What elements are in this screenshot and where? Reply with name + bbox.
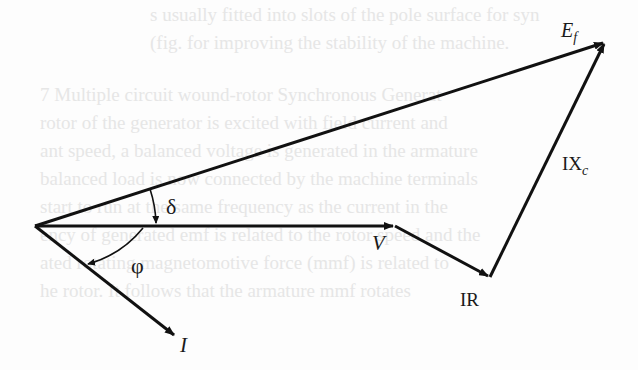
v-label: V bbox=[372, 231, 387, 255]
ir-vector bbox=[395, 226, 488, 276]
phasor-svg: Ef IXc V IR I δ φ bbox=[0, 0, 638, 370]
phasor-diagram-figure: s usually fitted into slots of the pole … bbox=[0, 0, 638, 370]
ef-label: Ef bbox=[560, 19, 579, 45]
delta-label: δ bbox=[166, 194, 176, 219]
i-vector bbox=[35, 226, 174, 335]
ixc-label: IXc bbox=[562, 153, 589, 178]
ixc-vector bbox=[490, 44, 604, 277]
delta-arc bbox=[150, 189, 156, 223]
i-label: I bbox=[179, 333, 188, 357]
phi-label: φ bbox=[131, 253, 144, 278]
ir-label: IR bbox=[460, 289, 479, 310]
ef-vector bbox=[35, 43, 603, 226]
